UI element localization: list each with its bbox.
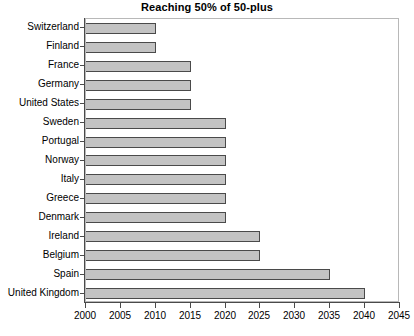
y-axis-tick bbox=[80, 274, 85, 275]
category-label: Germany bbox=[0, 79, 79, 89]
bar-row bbox=[86, 265, 398, 284]
y-axis-tick bbox=[80, 160, 85, 161]
category-label: Spain bbox=[0, 269, 79, 279]
x-axis-tick bbox=[225, 303, 226, 308]
bar-row bbox=[86, 57, 398, 76]
bar bbox=[86, 269, 330, 280]
x-axis-tick-label: 2010 bbox=[135, 310, 175, 321]
y-axis-tick bbox=[80, 46, 85, 47]
y-axis-tick bbox=[80, 293, 85, 294]
bar-row bbox=[86, 76, 398, 95]
x-axis-tick-label: 2045 bbox=[379, 310, 414, 321]
bar bbox=[86, 288, 365, 299]
y-axis-tick bbox=[80, 217, 85, 218]
bar bbox=[86, 99, 191, 110]
category-label: United Kingdom bbox=[0, 288, 79, 298]
x-axis-tick-label: 2035 bbox=[309, 310, 349, 321]
x-axis-tick-label: 2030 bbox=[274, 310, 314, 321]
bar bbox=[86, 23, 156, 34]
bar bbox=[86, 80, 191, 91]
x-axis-tick bbox=[329, 303, 330, 308]
x-axis-tick bbox=[364, 303, 365, 308]
bar-row bbox=[86, 133, 398, 152]
bar-row bbox=[86, 19, 398, 38]
y-axis-tick bbox=[80, 65, 85, 66]
bar-row bbox=[86, 152, 398, 171]
chart-title: Reaching 50% of 50-plus bbox=[0, 1, 414, 13]
bar bbox=[86, 250, 260, 261]
bar-row bbox=[86, 170, 398, 189]
bar bbox=[86, 137, 226, 148]
bar bbox=[86, 212, 226, 223]
bars-layer bbox=[86, 19, 398, 301]
bar-row bbox=[86, 189, 398, 208]
x-axis-tick-label: 2000 bbox=[65, 310, 105, 321]
bar-row bbox=[86, 227, 398, 246]
bar bbox=[86, 118, 226, 129]
x-axis-tick bbox=[399, 303, 400, 308]
category-label: Ireland bbox=[0, 231, 79, 241]
bar-row bbox=[86, 114, 398, 133]
category-label: Sweden bbox=[0, 117, 79, 127]
category-label: Norway bbox=[0, 155, 79, 165]
x-axis-tick bbox=[120, 303, 121, 308]
bar bbox=[86, 231, 260, 242]
bar bbox=[86, 193, 226, 204]
y-axis-tick bbox=[80, 255, 85, 256]
y-axis-tick bbox=[80, 236, 85, 237]
x-axis-tick bbox=[85, 303, 86, 308]
x-axis-tick bbox=[190, 303, 191, 308]
x-axis-tick-label: 2040 bbox=[344, 310, 384, 321]
category-label: Finland bbox=[0, 41, 79, 51]
y-axis-tick bbox=[80, 122, 85, 123]
y-axis-tick bbox=[80, 103, 85, 104]
y-axis-tick bbox=[80, 179, 85, 180]
category-label: Greece bbox=[0, 193, 79, 203]
x-axis-tick bbox=[259, 303, 260, 308]
bar-row bbox=[86, 38, 398, 57]
bar-chart: Reaching 50% of 50-plus SwitzerlandFinla… bbox=[0, 0, 414, 336]
category-label: Portugal bbox=[0, 136, 79, 146]
x-axis-tick-label: 2025 bbox=[239, 310, 279, 321]
category-label: Italy bbox=[0, 174, 79, 184]
y-axis-tick bbox=[80, 84, 85, 85]
x-axis-tick-label: 2005 bbox=[100, 310, 140, 321]
category-label: France bbox=[0, 60, 79, 70]
bar bbox=[86, 42, 156, 53]
x-axis-tick-label: 2015 bbox=[170, 310, 210, 321]
bar-row bbox=[86, 95, 398, 114]
category-label: Denmark bbox=[0, 212, 79, 222]
plot-area bbox=[85, 18, 399, 302]
category-label: Belgium bbox=[0, 250, 79, 260]
y-axis-tick bbox=[80, 27, 85, 28]
y-axis-tick bbox=[80, 141, 85, 142]
bar bbox=[86, 61, 191, 72]
x-axis-tick bbox=[294, 303, 295, 308]
bar bbox=[86, 174, 226, 185]
bar bbox=[86, 155, 226, 166]
x-axis-tick bbox=[155, 303, 156, 308]
category-label: United States bbox=[0, 98, 79, 108]
y-axis-tick bbox=[80, 198, 85, 199]
bar-row bbox=[86, 208, 398, 227]
bar-row bbox=[86, 246, 398, 265]
bar-row bbox=[86, 284, 398, 303]
category-label: Switzerland bbox=[0, 22, 79, 32]
